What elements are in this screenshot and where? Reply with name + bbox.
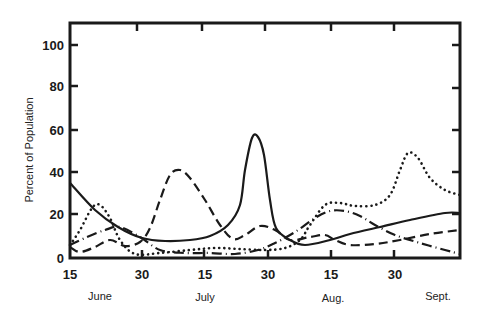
x-tick-labels: 15 30 15 30 15 30 xyxy=(63,267,402,282)
y-tick-100: 100 xyxy=(42,38,64,53)
y-tick-20: 20 xyxy=(50,207,64,222)
month-label-aug: Aug. xyxy=(322,292,345,304)
y-axis-title: Percent of Population xyxy=(23,97,35,202)
x-tick-jul-15: 15 xyxy=(198,267,212,282)
series-solid-line xyxy=(70,134,460,245)
month-label-july: July xyxy=(195,291,215,303)
x-tick-jun-30: 30 xyxy=(135,267,149,282)
y-tick-0: 0 xyxy=(57,251,64,266)
x-tick-aug-30: 30 xyxy=(388,267,402,282)
y-tick-40: 40 xyxy=(50,165,64,180)
y-tick-60: 60 xyxy=(50,123,64,138)
y-tick-80: 80 xyxy=(50,79,64,94)
x-tick-jun-15: 15 xyxy=(63,267,77,282)
line-chart: 100 80 60 40 20 0 Percent of Population … xyxy=(0,0,490,319)
month-label-sept: Sept. xyxy=(425,290,451,302)
month-labels: June July Aug. Sept. xyxy=(88,290,451,304)
x-tick-jul-30: 30 xyxy=(261,267,275,282)
month-label-june: June xyxy=(88,290,112,302)
series-dashed-line xyxy=(70,170,460,252)
series-group xyxy=(70,134,460,255)
x-tick-aug-15: 15 xyxy=(324,267,338,282)
y-tick-labels: 100 80 60 40 20 0 xyxy=(42,38,64,266)
